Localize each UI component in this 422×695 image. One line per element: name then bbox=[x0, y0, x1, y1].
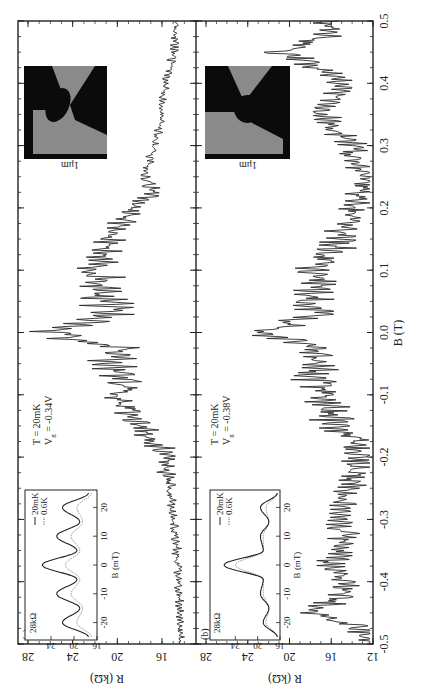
y-tick-label: 28 bbox=[22, 650, 34, 664]
svg-text:0.6K: 0.6K bbox=[224, 497, 234, 515]
inset-x-tick: 10 bbox=[282, 531, 292, 541]
x-tick-label: 0.1 bbox=[377, 263, 391, 278]
x-axis-label: B (T) bbox=[391, 320, 405, 346]
inset-x-tick: 0 bbox=[282, 562, 292, 567]
inset-x-tick: -20 bbox=[99, 616, 109, 628]
inset-y-tick: 16 bbox=[92, 641, 102, 651]
inset-a-top-label: 28kΩ bbox=[28, 613, 38, 634]
svg-text:0.6K: 0.6K bbox=[39, 497, 49, 515]
panel-b-label: (b) bbox=[199, 628, 211, 640]
panel-b-temperature: T = 20mK bbox=[209, 403, 220, 445]
y-tick-label: 28 bbox=[200, 650, 212, 664]
inset-x-tick: 10 bbox=[99, 531, 109, 541]
sem-image-a bbox=[24, 66, 107, 159]
y-tick-labels: 282420162824201612 bbox=[22, 650, 379, 664]
x-tick-label: -0.3 bbox=[377, 510, 391, 529]
inset-b-top-label: 28kΩ bbox=[212, 613, 222, 634]
y-axis-label-b: R (kΩ) bbox=[268, 672, 302, 686]
x-tick-label: 0.4 bbox=[377, 76, 391, 91]
inset-a-xlabel: B (mT) bbox=[110, 552, 120, 579]
y-tick-label: 20 bbox=[111, 650, 123, 664]
scale-bar-label-b: 1μm bbox=[239, 160, 257, 171]
y-tick-label: 16 bbox=[156, 650, 168, 664]
inset-y-tick: 16 bbox=[275, 641, 285, 651]
y-tick-label: 24 bbox=[67, 650, 79, 664]
inset-y-tick: 24 bbox=[46, 641, 56, 651]
inset-y-tick: 24 bbox=[230, 641, 240, 651]
x-tick-label: 0.5 bbox=[377, 14, 391, 29]
y-tick-label: 12 bbox=[367, 650, 379, 664]
y-axis-label-a: R (kΩ) bbox=[90, 672, 124, 686]
inset-x-tick: -10 bbox=[99, 587, 109, 599]
x-tick-labels: -0.5-0.4-0.3-0.2-0.10.00.10.20.30.40.5 bbox=[377, 14, 391, 654]
x-tick-label: -0.4 bbox=[377, 572, 391, 591]
x-tick-label: -0.2 bbox=[377, 448, 391, 467]
inset-x-tick: 20 bbox=[99, 502, 109, 512]
sem-image-b bbox=[205, 66, 290, 159]
inset-y-tick: 20 bbox=[253, 641, 263, 651]
rotated-figure: -0.5-0.4-0.3-0.2-0.10.00.10.20.30.40.5 B… bbox=[0, 0, 422, 695]
inset-x-tick: 20 bbox=[282, 502, 292, 512]
x-tick-label: -0.1 bbox=[377, 385, 391, 404]
inset-x-tick: 0 bbox=[99, 562, 109, 567]
inset-x-tick: -20 bbox=[282, 616, 292, 628]
y-tick-label: 20 bbox=[284, 650, 296, 664]
y-tick-label: 16 bbox=[325, 650, 337, 664]
inset-y-tick: 20 bbox=[69, 641, 79, 651]
x-tick-label: 0.2 bbox=[377, 200, 391, 215]
panel-a-temperature: T = 20mK bbox=[31, 403, 42, 445]
figure-canvas: -0.5-0.4-0.3-0.2-0.10.00.10.20.30.40.5 B… bbox=[0, 0, 422, 695]
scale-bar-label-a: 1μm bbox=[61, 160, 79, 171]
x-tick-label: 0.3 bbox=[377, 138, 391, 153]
y-tick-label: 24 bbox=[242, 650, 254, 664]
inset-x-tick: -10 bbox=[282, 587, 292, 599]
x-tick-label: 0.0 bbox=[377, 325, 391, 340]
inset-b-xlabel: B (mT) bbox=[292, 552, 302, 579]
